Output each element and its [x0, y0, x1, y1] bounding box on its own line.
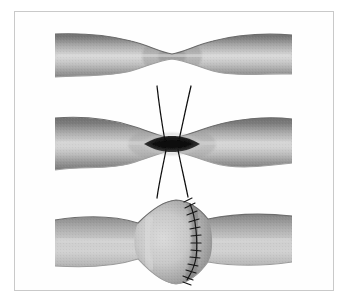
lumen-highlight-panel1 — [56, 55, 291, 56]
panel-stenotic-vessel — [50, 28, 300, 84]
stay-suture-upper-left — [157, 86, 165, 141]
suture-stitch — [183, 282, 191, 285]
panel-arteriotomy-with-stay-sutures — [50, 86, 300, 198]
patch-bulge — [128, 196, 220, 288]
illustration-stage: Stenotic vessel with narrowed lumen Long… — [0, 0, 348, 303]
stay-suture-upper-right — [179, 86, 191, 140]
illustration-root: Stenotic vessel with narrowed lumen Long… — [0, 0, 348, 303]
illustration-canvas — [0, 0, 348, 303]
stay-suture-lower-right — [178, 150, 188, 197]
suture-stitch — [184, 198, 192, 202]
patch-bulge-texture — [128, 196, 220, 288]
stay-suture-lower-left — [157, 150, 166, 198]
panel-completed-patch-angioplasty — [50, 194, 300, 290]
